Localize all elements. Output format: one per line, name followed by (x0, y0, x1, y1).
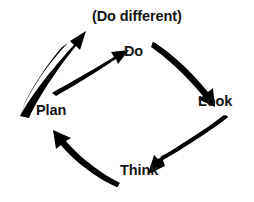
node-label-look: Look (198, 94, 232, 109)
node-label-think: Think (120, 163, 158, 178)
node-label-do-different: (Do different) (92, 9, 182, 24)
node-label-plan: Plan (36, 103, 66, 118)
arrow-think-to-plan (53, 130, 120, 187)
node-label-do: Do (124, 44, 143, 59)
cycle-diagram: (Do different) Do Look Think Plan (0, 0, 254, 202)
arrow-look-to-think (148, 115, 228, 174)
